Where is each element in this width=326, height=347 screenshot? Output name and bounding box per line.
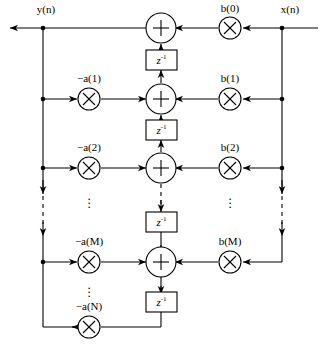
signal-flow-diagram: y(n) x(n) −a(1) −a(2) −a(M) −a(N) b(0) b… [0, 0, 326, 347]
ellipsis-dot: . [220, 202, 240, 206]
delay-exp-1: -1 [161, 123, 167, 131]
ellipsis-right: . . . [220, 194, 240, 206]
coefficient-label-bM: b(M) [205, 236, 255, 247]
coefficient-label-a2: −a(2) [63, 142, 115, 153]
delay-exp-0: -1 [161, 53, 167, 61]
ellipsis-dot: . [79, 291, 99, 295]
coefficient-label-aM: −a(M) [63, 236, 115, 247]
coefficient-label-a1: −a(1) [63, 73, 115, 84]
delay-exp-2: -1 [161, 215, 167, 223]
delay-label-1: z-1 [146, 124, 177, 136]
ellipsis-left-lower: . . . [79, 283, 99, 295]
delay-label-2: z-1 [146, 216, 177, 228]
coefficient-label-b1: b(1) [205, 73, 255, 84]
delay-label-3: z-1 [146, 296, 177, 308]
delay-exp-3: -1 [161, 295, 167, 303]
coefficient-label-b0: b(0) [205, 3, 255, 14]
input-label: x(n) [272, 4, 308, 15]
coefficient-label-b2: b(2) [205, 142, 255, 153]
ellipsis-dot: . [79, 202, 99, 206]
output-label: y(n) [28, 4, 64, 15]
coefficient-label-aN: −a(N) [63, 301, 115, 312]
ellipsis-left-upper: . . . [79, 194, 99, 206]
delay-label-0: z-1 [146, 54, 177, 66]
